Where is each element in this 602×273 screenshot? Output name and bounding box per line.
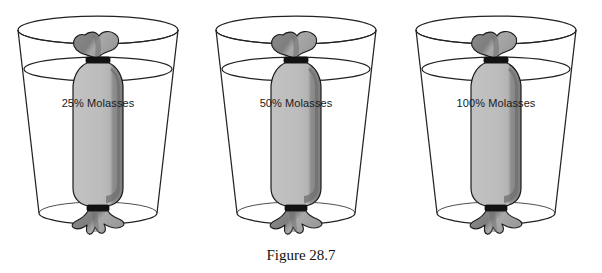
bag-body [73,63,123,206]
beaker-drawing [0,0,196,245]
bag-top-tie-band [284,57,308,63]
beaker-right-wall [355,30,376,213]
figure-caption: Figure 28.7 [0,247,602,264]
bag-bottom-tie-band [485,205,507,211]
bag-body [271,63,321,206]
beaker-drawing [398,0,594,245]
beaker-right-wall [555,30,576,213]
dialysis-bag [270,32,322,235]
figure-illustration: 25% Molasses [0,0,602,273]
beaker-left-wall [416,30,437,213]
beaker-left-wall [216,30,237,213]
bag-body [471,63,521,206]
bag-top-tie-band [86,57,110,63]
dialysis-bag [72,32,124,235]
beaker-assembly-left: 25% Molasses [0,0,196,245]
beaker-drawing [198,0,394,245]
bag-top-tie-band [484,57,508,63]
beaker-left-wall [18,30,39,213]
dialysis-bag [470,32,522,235]
beaker-assembly-middle: 50% Molasses [198,0,394,245]
beaker-assembly-right: 100% Molasses [398,0,594,245]
beaker-right-wall [157,30,178,213]
bag-bottom-tie-band [285,205,307,211]
bag-bottom-tie-band [87,205,109,211]
